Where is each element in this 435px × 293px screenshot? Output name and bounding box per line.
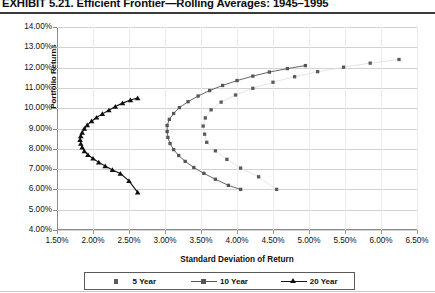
x-tick-mark: [381, 230, 382, 234]
x-tick-label: 6.50%: [395, 236, 435, 245]
y-tick-label: 5.00%: [0, 206, 52, 214]
legend-square-swatch: [114, 279, 119, 284]
legend-square-icon: [104, 277, 130, 286]
legend-triangle-icon: [281, 277, 307, 286]
x-axis-title: Standard Deviation of Return: [57, 255, 417, 264]
x-tick-mark: [165, 230, 166, 234]
y-tick-mark: [53, 189, 57, 190]
x-tick-mark: [57, 230, 58, 234]
y-tick-mark: [53, 88, 57, 89]
legend-square-icon: [191, 277, 217, 286]
y-tick-mark: [53, 210, 57, 211]
legend-label: 20 Year: [310, 277, 338, 286]
vertical-gridline: [381, 27, 382, 230]
vertical-gridline: [129, 27, 130, 230]
vertical-gridline: [165, 27, 166, 230]
vertical-gridline: [273, 27, 274, 230]
y-tick-label: 9.00%: [0, 125, 52, 133]
y-tick-label: 14.00%: [0, 23, 52, 31]
y-tick-label: 11.00%: [0, 84, 52, 92]
x-tick-mark: [201, 230, 202, 234]
y-tick-label: 8.00%: [0, 145, 52, 153]
vertical-gridline: [93, 27, 94, 230]
y-tick-mark: [53, 169, 57, 170]
y-tick-mark: [53, 149, 57, 150]
legend-label: 5 Year: [133, 277, 156, 286]
legend-label: 10 Year: [220, 277, 248, 286]
plot-area: [57, 27, 417, 230]
y-tick-label: 13.00%: [0, 43, 52, 51]
bottom-divider: [0, 291, 435, 292]
y-tick-mark: [53, 27, 57, 28]
vertical-gridline: [309, 27, 310, 230]
y-tick-label: 6.00%: [0, 185, 52, 193]
figure-container: EXHIBIT 5.21. Efficient Frontier—Rolling…: [0, 0, 435, 293]
x-tick-mark: [309, 230, 310, 234]
y-tick-label: 10.00%: [0, 104, 52, 112]
x-tick-mark: [345, 230, 346, 234]
legend-square-swatch: [201, 279, 206, 284]
title-divider: [0, 12, 435, 14]
y-tick-mark: [53, 129, 57, 130]
x-tick-mark: [129, 230, 130, 234]
y-tick-mark: [53, 108, 57, 109]
x-tick-mark: [93, 230, 94, 234]
chart-legend: 5 Year10 Year20 Year: [84, 272, 355, 290]
x-tick-mark: [237, 230, 238, 234]
y-tick-label: 4.00%: [0, 226, 52, 234]
legend-item-5-year[interactable]: 5 Year: [85, 277, 175, 286]
vertical-gridline: [237, 27, 238, 230]
vertical-gridline: [417, 27, 418, 230]
legend-triangle-swatch: [290, 278, 296, 283]
x-tick-mark: [273, 230, 274, 234]
vertical-gridline: [201, 27, 202, 230]
legend-item-20-year[interactable]: 20 Year: [264, 277, 354, 286]
page-title: EXHIBIT 5.21. Efficient Frontier—Rolling…: [2, 0, 433, 12]
vertical-gridline: [345, 27, 346, 230]
y-tick-label: 7.00%: [0, 165, 52, 173]
legend-item-10-year[interactable]: 10 Year: [175, 277, 265, 286]
x-tick-mark: [417, 230, 418, 234]
y-tick-label: 12.00%: [0, 64, 52, 72]
y-tick-mark: [53, 47, 57, 48]
y-tick-mark: [53, 68, 57, 69]
